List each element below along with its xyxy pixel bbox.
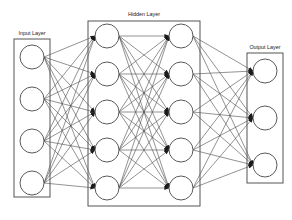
connection-edge <box>193 36 253 165</box>
neural-network-diagram: Input LayerHidden LayerOutput Layer <box>0 0 292 220</box>
neuron-hidden2-3 <box>169 100 193 124</box>
connection-edge <box>193 112 253 118</box>
neuron-input-1 <box>20 45 44 69</box>
connection-edge <box>44 36 95 141</box>
connection-edge <box>44 141 95 188</box>
neuron-input-3 <box>20 129 44 153</box>
connection-edge <box>193 71 253 74</box>
connection-edge <box>193 74 253 118</box>
neuron-input-4 <box>20 171 44 195</box>
connection-edge <box>193 150 253 165</box>
connection-edge <box>193 74 253 165</box>
connection-edges <box>44 36 253 188</box>
neuron-output-3 <box>253 153 277 177</box>
connection-edge <box>44 183 95 188</box>
neuron-hidden1-2 <box>95 62 119 86</box>
connection-edge <box>44 99 95 188</box>
neuron-output-1 <box>253 59 277 83</box>
connection-edge <box>44 36 95 57</box>
connection-edge <box>193 118 253 188</box>
neuron-output-2 <box>253 106 277 130</box>
connection-edge <box>193 71 253 188</box>
connection-edge <box>193 36 253 71</box>
network-canvas: Input LayerHidden LayerOutput Layer <box>0 0 292 220</box>
neuron-hidden1-1 <box>95 24 119 48</box>
layer-label-output: Output Layer <box>249 44 280 50</box>
layer-boxes <box>14 21 283 206</box>
connection-edge <box>44 74 95 99</box>
connection-edge <box>44 36 95 183</box>
connection-edge <box>44 36 95 99</box>
connection-edge <box>193 165 253 188</box>
neuron-input-2 <box>20 87 44 111</box>
neuron-hidden2-1 <box>169 24 193 48</box>
layer-label-input: Input Layer <box>19 30 46 36</box>
neuron-hidden1-3 <box>95 100 119 124</box>
layer-labels: Input LayerHidden LayerOutput Layer <box>19 11 281 50</box>
connection-edge <box>44 74 95 141</box>
neuron-hidden2-4 <box>169 138 193 162</box>
neuron-hidden2-2 <box>169 62 193 86</box>
neuron-hidden2-5 <box>169 176 193 200</box>
neuron-hidden1-5 <box>95 176 119 200</box>
neuron-hidden1-4 <box>95 138 119 162</box>
layer-label-hidden1: Hidden Layer <box>128 11 160 17</box>
